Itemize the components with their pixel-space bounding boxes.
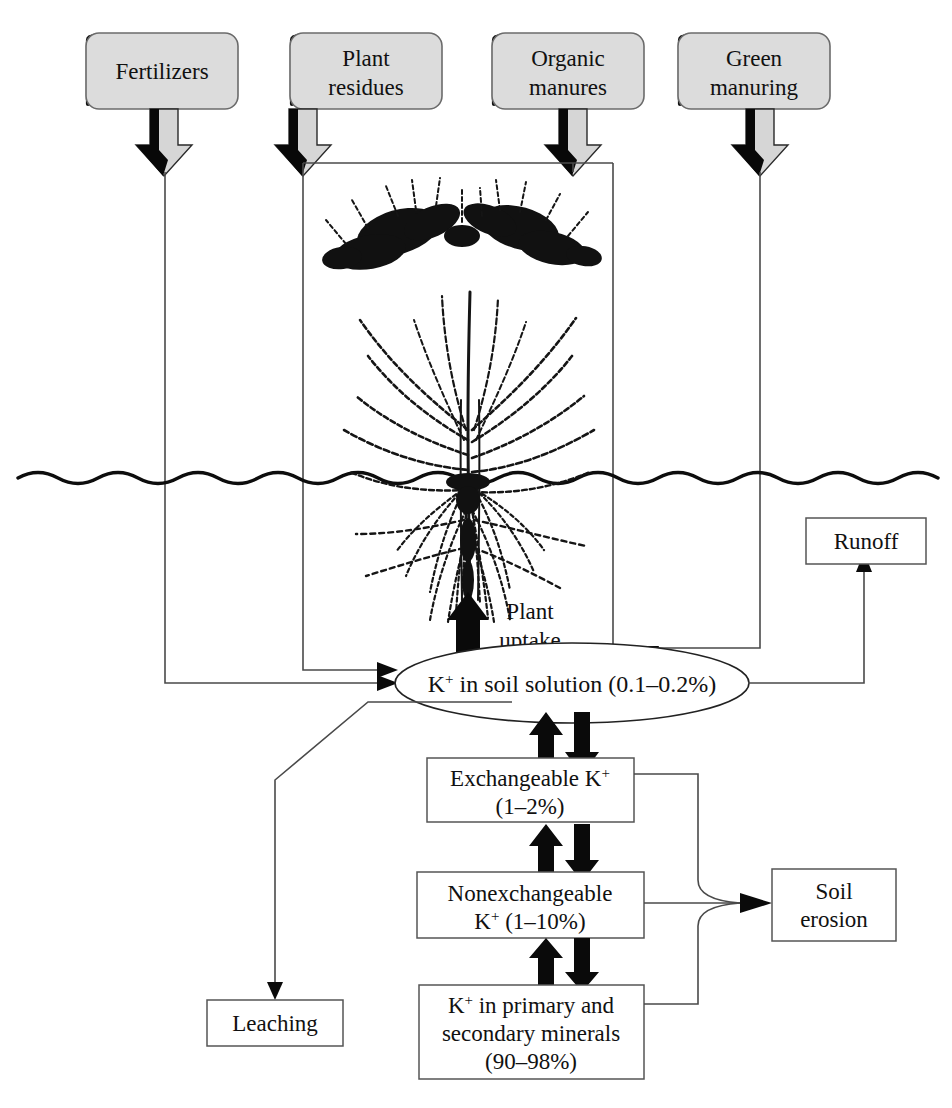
soil-solution-label: K+ in soil solution (0.1–0.2%): [428, 671, 716, 697]
fertilizers-label: Fertilizers: [115, 59, 208, 84]
leaching-label: Leaching: [232, 1011, 318, 1036]
soil-erosion-label-line1: Soil: [815, 879, 852, 904]
pool-node-exchangeable[interactable]: Exchangeable K+ (1–2%): [427, 758, 634, 822]
nonexchangeable-label-line1: Nonexchangeable: [448, 881, 613, 906]
minerals-label-line1: K+ in primary and: [448, 992, 615, 1018]
organic-manures-label-line2: manures: [529, 75, 607, 100]
runoff-label: Runoff: [834, 529, 899, 554]
pool-node-nonexchangeable[interactable]: Nonexchangeable K+ (1–10%): [417, 872, 644, 938]
organic-manures-label-line1: Organic: [531, 46, 605, 71]
green-manuring-label-line1: Green: [726, 46, 783, 71]
potassium-cycle-diagram: Fertilizers Plant residues Organic manur…: [0, 0, 952, 1108]
soil-erosion-label-line2: erosion: [800, 907, 868, 932]
pool-node-minerals[interactable]: K+ in primary and secondary minerals (90…: [419, 985, 644, 1079]
exchangeable-label-line1: Exchangeable K+: [450, 765, 610, 791]
plant-uptake-label-line1: Plant: [506, 599, 554, 624]
plant-residues-label-line1: Plant: [342, 46, 390, 71]
exchangeable-label-line2: (1–2%): [496, 794, 565, 819]
plant-residues-label-line2: residues: [328, 75, 403, 100]
output-node-runoff[interactable]: Runoff: [806, 518, 926, 564]
output-node-leaching[interactable]: Leaching: [207, 1000, 343, 1046]
output-node-soil-erosion[interactable]: Soil erosion: [772, 869, 896, 941]
minerals-label-line3: (90–98%): [485, 1049, 577, 1074]
pool-node-soil-solution[interactable]: K+ in soil solution (0.1–0.2%): [395, 643, 749, 723]
minerals-label-line2: secondary minerals: [442, 1021, 620, 1046]
green-manuring-label-line2: manuring: [710, 75, 799, 100]
